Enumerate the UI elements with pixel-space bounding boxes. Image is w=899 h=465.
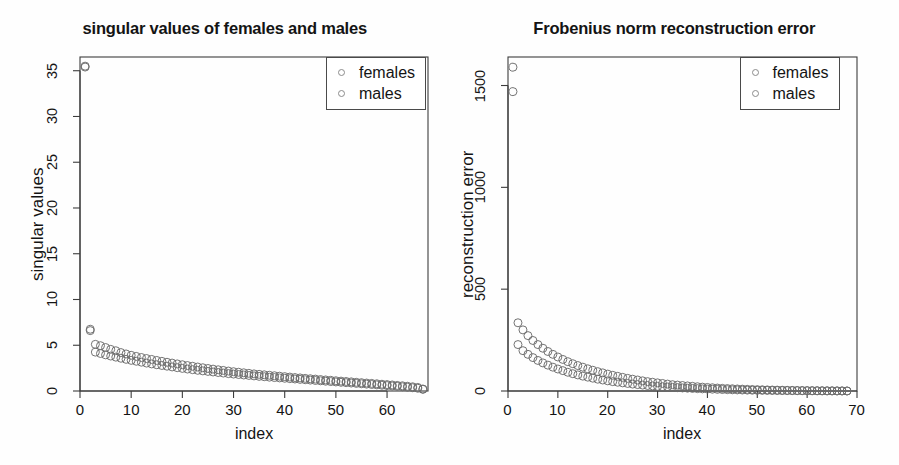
- data-point: [583, 365, 591, 373]
- data-point: [578, 363, 586, 371]
- data-point: [513, 319, 521, 327]
- y-tick-label: 0: [471, 371, 489, 411]
- data-point: [117, 354, 125, 362]
- y-tick-label: 30: [43, 96, 61, 136]
- x-tick-label: 0: [483, 401, 533, 418]
- x-tick-label: 10: [106, 401, 156, 418]
- data-point: [538, 359, 546, 367]
- data-point: [523, 332, 531, 340]
- series-males: [81, 63, 427, 393]
- series-males: [508, 88, 850, 395]
- panel-reconstruction-error: Frobenius norm reconstruction error fema…: [450, 0, 899, 465]
- data-point: [558, 355, 566, 363]
- y-tick-label: 35: [43, 51, 61, 91]
- series-females: [508, 63, 850, 395]
- x-tick-label: 30: [632, 401, 682, 418]
- x-axis-label: index: [80, 425, 428, 443]
- data-point: [508, 88, 516, 96]
- data-point: [91, 340, 99, 348]
- x-tick-label: 40: [260, 401, 310, 418]
- legend-circle-icon: [749, 86, 765, 102]
- data-point: [558, 367, 566, 375]
- x-tick-label: 0: [55, 401, 105, 418]
- data-point: [419, 385, 427, 393]
- panel-singular-values: singular values of females and males fem…: [0, 0, 450, 465]
- x-tick-label: 20: [582, 401, 632, 418]
- legend-circle-icon: [335, 65, 351, 81]
- data-point: [568, 360, 576, 368]
- data-point: [573, 362, 581, 370]
- data-point: [548, 363, 556, 371]
- legend-item[interactable]: males: [335, 83, 415, 104]
- y-axis-label: singular values: [28, 167, 48, 280]
- data-point: [508, 63, 516, 71]
- x-tick-label: 30: [209, 401, 259, 418]
- legend-label: males: [359, 85, 402, 103]
- data-point: [553, 353, 561, 361]
- figure-container: singular values of females and males fem…: [0, 0, 899, 465]
- data-point: [563, 358, 571, 366]
- legend-item[interactable]: males: [749, 83, 829, 104]
- y-tick-label: 5: [43, 325, 61, 365]
- y-tick-label: 0: [43, 371, 61, 411]
- y-axis-label: reconstruction error: [458, 150, 478, 297]
- x-tick-label: 60: [362, 401, 412, 418]
- legend-circle-icon: [749, 65, 765, 81]
- x-tick-label: 50: [311, 401, 361, 418]
- x-axis-label: index: [508, 425, 857, 443]
- x-tick-label: 60: [782, 401, 832, 418]
- data-point: [588, 366, 596, 374]
- legend-item[interactable]: females: [749, 62, 829, 83]
- y-tick-label: 1500: [471, 66, 489, 106]
- data-point: [528, 336, 536, 344]
- x-tick-label: 20: [157, 401, 207, 418]
- x-tick-label: 10: [532, 401, 582, 418]
- data-point: [568, 370, 576, 378]
- x-tick-label: 50: [732, 401, 782, 418]
- legend-right[interactable]: femalesmales: [740, 57, 840, 110]
- legend-circle-icon: [335, 86, 351, 102]
- x-tick-label: 70: [832, 401, 882, 418]
- legend-label: females: [773, 64, 829, 82]
- data-point: [563, 368, 571, 376]
- series-females: [81, 62, 427, 393]
- data-point: [102, 351, 110, 359]
- legend-label: males: [773, 85, 816, 103]
- data-point: [573, 371, 581, 379]
- legend-item[interactable]: females: [335, 62, 415, 83]
- data-point: [553, 365, 561, 373]
- legend-left[interactable]: femalesmales: [326, 57, 426, 110]
- legend-label: females: [359, 64, 415, 82]
- x-tick-label: 40: [682, 401, 732, 418]
- y-tick-label: 10: [43, 279, 61, 319]
- data-point: [91, 348, 99, 356]
- data-point: [96, 349, 104, 357]
- data-point: [543, 361, 551, 369]
